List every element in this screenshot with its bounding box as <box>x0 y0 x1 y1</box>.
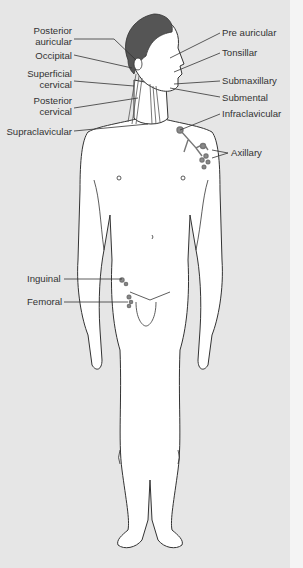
label-submaxillary: Submaxillary <box>222 75 277 86</box>
label-pre-auricular: Pre auricular <box>222 27 276 38</box>
label-infraclavicular: Infraclavicular <box>222 108 281 119</box>
label-posterior-cervical: Posteriorcervical <box>6 95 72 117</box>
label-superficial-cervical: Superficialcervical <box>6 68 72 90</box>
label-inguinal: Inguinal <box>27 273 61 284</box>
label-posterior-auricular: Posteriorauricular <box>6 25 72 47</box>
label-supraclavicular: Supraclavicular <box>4 126 72 137</box>
label-axillary: Axillary <box>231 147 262 158</box>
torso-outline <box>78 115 223 548</box>
ear <box>134 58 142 70</box>
label-femoral: Femoral <box>27 296 62 307</box>
label-tonsillar: Tonsillar <box>222 47 257 58</box>
label-submental: Submental <box>222 92 268 103</box>
label-occipital: Occipital <box>6 50 72 61</box>
